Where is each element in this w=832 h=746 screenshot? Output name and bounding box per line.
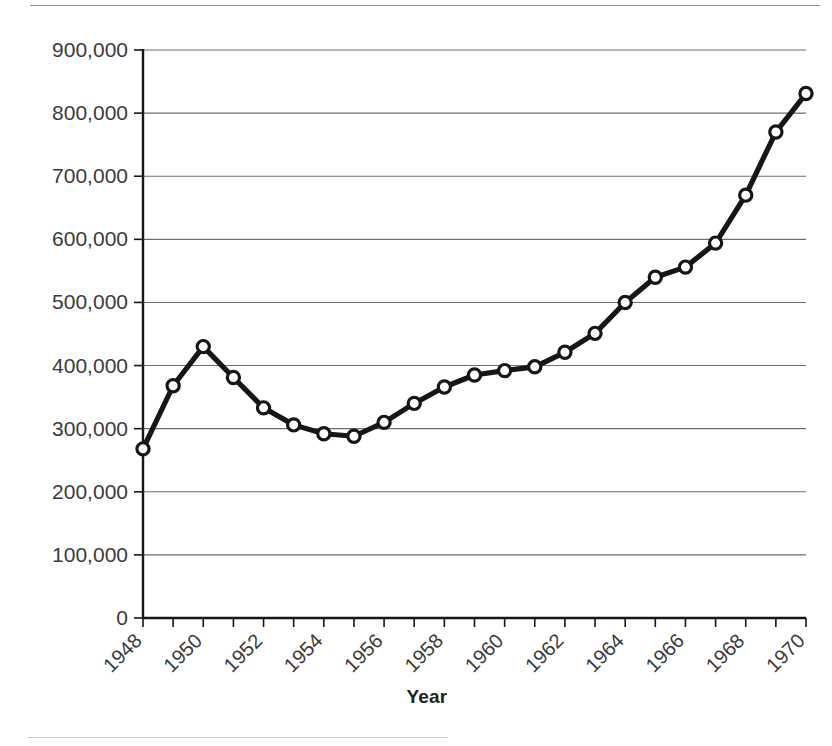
x-axis-tick-label: 1954	[280, 629, 327, 676]
y-tick-marks-group	[134, 50, 143, 618]
data-point-marker	[770, 126, 782, 138]
data-point-marker	[529, 361, 541, 373]
y-axis-tick-label: 200,000	[52, 480, 128, 503]
data-point-marker	[649, 271, 661, 283]
data-point-marker	[619, 296, 631, 308]
x-axis-tick-label: 1952	[219, 629, 266, 676]
data-point-marker	[137, 443, 149, 455]
y-axis-tick-label: 0	[116, 606, 128, 629]
data-point-marker	[227, 371, 239, 383]
y-axis-tick-label: 900,000	[52, 38, 128, 61]
data-point-marker	[288, 419, 300, 431]
x-axis-tick-label: 1958	[400, 629, 447, 676]
x-axis-tick-label: 1950	[159, 629, 206, 676]
y-axis-tick-labels-group: 0100,000200,000300,000400,000500,000600,…	[52, 38, 128, 629]
x-axis-tick-label: 1962	[521, 629, 568, 676]
x-axis-title-text: Year	[407, 686, 448, 708]
data-point-marker	[257, 402, 269, 414]
x-axis-tick-labels-group: 1948195019521954195619581960196219641966…	[99, 629, 809, 676]
data-point-marker	[408, 397, 420, 409]
x-axis-title: Year	[0, 686, 832, 708]
data-point-marker	[559, 346, 571, 358]
data-point-marker	[800, 87, 812, 99]
data-point-marker	[348, 430, 360, 442]
data-point-marker	[468, 369, 480, 381]
y-axis-tick-label: 600,000	[52, 227, 128, 250]
series-line-path	[143, 94, 806, 449]
x-tick-marks-group	[143, 618, 806, 627]
data-point-marker	[589, 327, 601, 339]
x-axis-tick-label: 1964	[581, 629, 628, 676]
x-axis-tick-label: 1960	[460, 629, 507, 676]
y-axis-tick-label: 100,000	[52, 543, 128, 566]
y-axis-tick-label: 700,000	[52, 164, 128, 187]
x-axis-tick-label: 1956	[340, 629, 387, 676]
data-point-marker	[318, 428, 330, 440]
data-point-marker	[438, 381, 450, 393]
y-axis-tick-label: 800,000	[52, 101, 128, 124]
x-axis-tick-label: 1948	[99, 629, 146, 676]
line-chart: 0100,000200,000300,000400,000500,000600,…	[0, 0, 832, 700]
data-point-marker	[709, 237, 721, 249]
chart-plot-svg: 0100,000200,000300,000400,000500,000600,…	[0, 0, 832, 700]
data-point-marker	[378, 416, 390, 428]
chart-page: 0100,000200,000300,000400,000500,000600,…	[0, 0, 832, 746]
data-point-marker	[197, 341, 209, 353]
x-axis-tick-label: 1966	[641, 629, 688, 676]
y-axis-tick-label: 400,000	[52, 354, 128, 377]
axis-lines-group	[143, 49, 806, 618]
data-point-marker	[499, 365, 511, 377]
data-point-marker	[167, 380, 179, 392]
data-point-marker	[679, 261, 691, 273]
data-series-line	[143, 94, 806, 449]
bottom-caption-rule	[28, 737, 448, 738]
x-axis-tick-label: 1970	[762, 629, 809, 676]
y-axis-tick-label: 500,000	[52, 290, 128, 313]
y-axis-tick-label: 300,000	[52, 417, 128, 440]
data-point-marker	[740, 189, 752, 201]
data-series-markers	[137, 87, 812, 455]
x-axis-tick-label: 1968	[702, 629, 749, 676]
gridlines-group	[143, 50, 806, 555]
